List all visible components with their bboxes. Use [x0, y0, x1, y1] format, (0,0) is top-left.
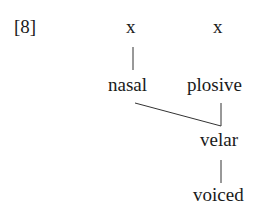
line-nasal-velar	[135, 103, 221, 126]
association-lines	[0, 0, 267, 211]
